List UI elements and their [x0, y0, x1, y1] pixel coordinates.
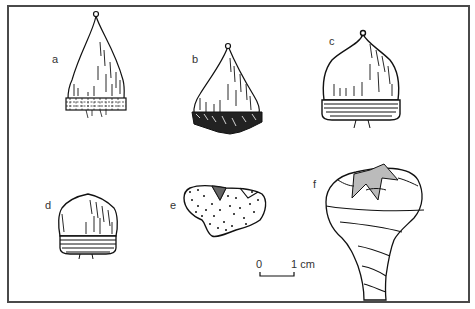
scale-bar-end-label: 1 cm — [291, 258, 315, 270]
specimen-e-drawing — [184, 186, 266, 237]
illustration-canvas — [0, 0, 475, 309]
scale-bar — [260, 272, 294, 276]
specimen-e-label: e — [170, 199, 176, 211]
specimen-f-drawing — [326, 164, 424, 300]
specimen-a-drawing — [66, 12, 126, 119]
scale-bar-start-label: 0 — [256, 258, 262, 270]
specimen-d-label: d — [45, 199, 51, 211]
specimen-f-label: f — [313, 178, 316, 190]
specimen-a-label: a — [52, 53, 58, 65]
specimen-c-label: c — [329, 35, 335, 47]
specimen-b-drawing — [192, 44, 262, 135]
specimen-b-label: b — [192, 53, 198, 65]
specimen-d-drawing — [59, 194, 118, 259]
